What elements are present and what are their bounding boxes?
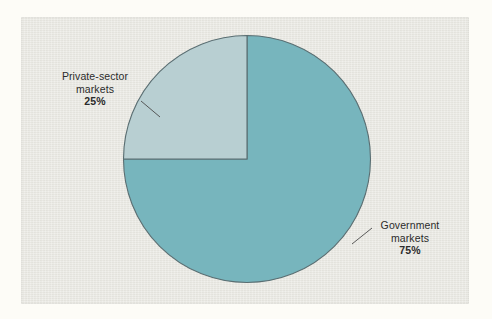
pie-label-government-percent: 75% xyxy=(362,244,458,257)
pie-label-government-markets: Government markets 75% xyxy=(362,219,458,257)
pie-chart-figure: Private-sector markets 25% Government ma… xyxy=(0,0,492,319)
pie-label-private-line1: Private-sector xyxy=(52,70,138,83)
pie-label-private-line2: markets xyxy=(52,83,138,96)
pie-label-government-line1: Government xyxy=(362,219,458,232)
pie-label-private-sector-markets: Private-sector markets 25% xyxy=(52,70,138,108)
pie-label-government-line2: markets xyxy=(362,232,458,245)
pie-chart-plot xyxy=(0,0,492,319)
pie-slice-private-sector-markets[interactable] xyxy=(124,36,248,160)
pie-label-private-percent: 25% xyxy=(52,95,138,108)
